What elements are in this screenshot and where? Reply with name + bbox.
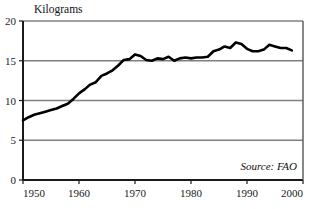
y-tick-label-20: 20 [5, 15, 17, 27]
y-tick-label-5: 5 [11, 134, 17, 146]
line-chart: 195019601970198019902000 05101520 Kilogr… [0, 0, 317, 209]
x-tick-label-2000: 2000 [281, 187, 304, 199]
x-tick-label-1990: 1990 [236, 187, 259, 199]
x-tick-label-1970: 1970 [124, 187, 147, 199]
y-tick-label-0: 0 [11, 174, 17, 186]
y-tick-label-10: 10 [5, 95, 17, 107]
y-axis-unit-label: Kilograms [34, 3, 83, 16]
x-tick-label-1950: 1950 [23, 187, 46, 199]
source-note: Source: FAO [240, 160, 297, 172]
y-tick-label-15: 15 [5, 55, 17, 67]
chart-container: 195019601970198019902000 05101520 Kilogr… [0, 0, 317, 209]
x-tick-label-1960: 1960 [68, 187, 91, 199]
chart-background [0, 0, 317, 209]
x-tick-label-1980: 1980 [180, 187, 203, 199]
